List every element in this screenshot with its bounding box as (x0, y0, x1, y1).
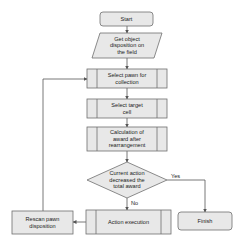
edge-decision-yes-to-finish (167, 180, 205, 212)
edge-label-no: No (131, 200, 138, 206)
edge-rescan-loop-to-select-pawn (43, 79, 87, 211)
select-target-label: Select target cell (97, 99, 157, 118)
get-disposition-label: Get object disposition on the field (96, 33, 158, 58)
action-exec-label: Action execution (96, 210, 161, 234)
edge-label-yes: Yes (171, 173, 180, 179)
decision-label: Current action decreased the total award (102, 164, 152, 196)
finish-label: Finish (178, 212, 232, 230)
rescan-label: Rescan pawn disposition (12, 211, 73, 234)
calc-award-label: Calculation of award after rearrangement (97, 127, 157, 151)
select-pawn-label: Select pawn for collection (97, 69, 157, 88)
start-label: Start (100, 12, 153, 26)
